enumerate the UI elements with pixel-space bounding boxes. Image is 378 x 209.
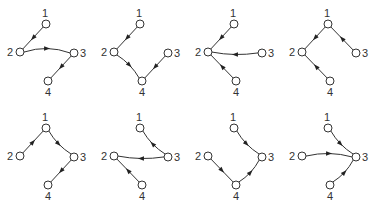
- node-2: [298, 48, 306, 56]
- node-label-3: 3: [174, 151, 180, 163]
- graph-panel-d: 1234: [289, 7, 368, 98]
- graph-panel-e: 1234: [7, 111, 86, 202]
- arrowhead-icon: [138, 156, 144, 161]
- node-label-4: 4: [233, 86, 239, 98]
- node-label-3: 3: [80, 151, 86, 163]
- node-3: [164, 49, 172, 57]
- graph-panel-g: 1234: [195, 111, 274, 202]
- node-4: [232, 181, 240, 189]
- edge-3-to-1: [143, 131, 165, 154]
- node-1: [230, 20, 238, 28]
- node-label-4: 4: [327, 86, 333, 98]
- graph-panel-f: 1234: [101, 111, 180, 202]
- node-4: [44, 181, 52, 189]
- node-2: [298, 152, 306, 160]
- node-label-1: 1: [136, 7, 142, 19]
- node-label-2: 2: [195, 150, 201, 162]
- node-label-1: 1: [230, 111, 236, 123]
- node-label-4: 4: [233, 190, 239, 202]
- node-label-2: 2: [289, 150, 295, 162]
- node-3: [352, 49, 360, 57]
- edge-1-to-3: [237, 131, 259, 154]
- node-3: [70, 153, 78, 161]
- node-2: [204, 152, 212, 160]
- node-4: [326, 77, 334, 85]
- node-label-3: 3: [362, 151, 368, 163]
- node-3: [258, 153, 266, 161]
- node-3: [352, 153, 360, 161]
- node-2: [16, 48, 24, 56]
- node-2: [204, 48, 212, 56]
- arrowhead-icon: [326, 151, 332, 156]
- node-label-2: 2: [101, 46, 107, 58]
- node-4: [326, 181, 334, 189]
- node-2: [110, 48, 118, 56]
- node-label-2: 2: [101, 150, 107, 162]
- node-1: [324, 124, 332, 132]
- arrowhead-icon: [44, 46, 50, 51]
- node-label-1: 1: [230, 7, 236, 19]
- node-4: [138, 181, 146, 189]
- node-label-2: 2: [195, 46, 201, 58]
- node-label-4: 4: [45, 86, 51, 98]
- node-1: [42, 20, 50, 28]
- node-label-3: 3: [268, 151, 274, 163]
- node-label-1: 1: [136, 111, 142, 123]
- node-label-3: 3: [80, 47, 86, 59]
- node-label-2: 2: [7, 150, 13, 162]
- node-label-1: 1: [324, 111, 330, 123]
- node-3: [258, 49, 266, 57]
- directed-graphs-figure: 12341234123412341234123412341234: [0, 0, 378, 209]
- node-label-3: 3: [174, 47, 180, 59]
- edge-1-to-3: [331, 131, 353, 154]
- edge-4-to-3: [333, 160, 354, 182]
- node-4: [138, 77, 146, 85]
- node-label-3: 3: [362, 47, 368, 59]
- node-2: [16, 152, 24, 160]
- graph-panel-a: 1234: [7, 7, 86, 98]
- node-3: [164, 153, 172, 161]
- node-label-4: 4: [139, 190, 145, 202]
- node-4: [232, 77, 240, 85]
- node-label-1: 1: [42, 111, 48, 123]
- node-label-4: 4: [327, 190, 333, 202]
- graph-panel-h: 1234: [289, 111, 368, 202]
- node-label-4: 4: [139, 86, 145, 98]
- node-1: [42, 124, 50, 132]
- node-label-4: 4: [45, 190, 51, 202]
- node-label-2: 2: [289, 46, 295, 58]
- node-1: [230, 124, 238, 132]
- node-1: [324, 20, 332, 28]
- node-label-3: 3: [268, 47, 274, 59]
- arrowhead-icon: [232, 52, 238, 57]
- node-label-1: 1: [324, 7, 330, 19]
- node-4: [44, 77, 52, 85]
- node-label-2: 2: [7, 46, 13, 58]
- node-1: [136, 20, 144, 28]
- node-3: [70, 49, 78, 57]
- node-1: [136, 124, 144, 132]
- edge-4-to-3: [239, 160, 260, 182]
- node-2: [110, 152, 118, 160]
- edge-1-to-3: [49, 131, 71, 154]
- edge-2-to-4: [117, 55, 139, 78]
- node-label-1: 1: [42, 7, 48, 19]
- graph-panel-b: 1234: [101, 7, 180, 98]
- graph-panel-c: 1234: [195, 7, 274, 98]
